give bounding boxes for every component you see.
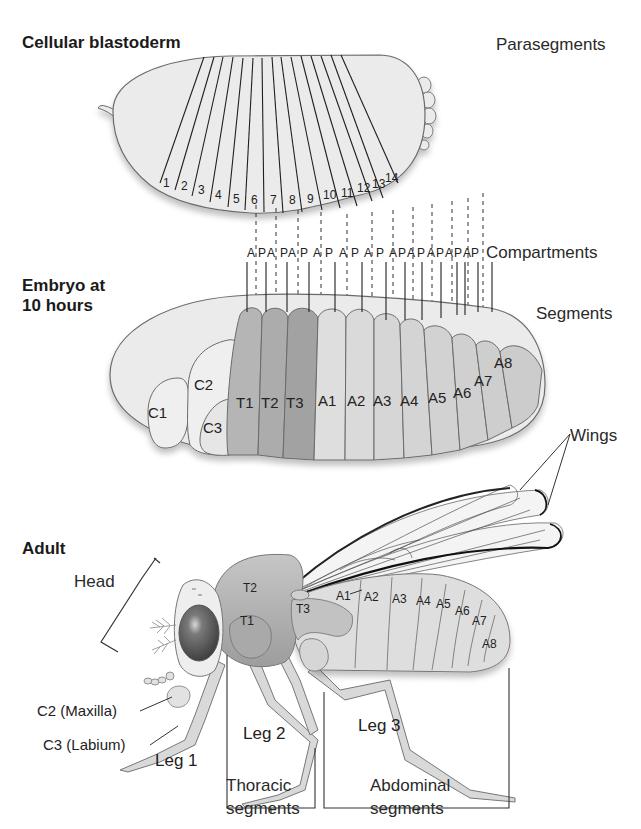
segment-c3: C3 [203,420,222,435]
segment-a2: A2 [347,393,365,408]
compartment-a: A [313,247,321,259]
drosophila-segmentation-figure: Cellular blastoderm Parasegments 1 2 3 4… [0,0,641,829]
segment-a3: A3 [373,393,391,408]
segment-a6: A6 [453,385,471,400]
haltere [291,590,309,600]
abdominal-segments-label-line1: Abdominal [370,777,450,794]
parasegment-number: 12 [357,182,370,194]
adult-t3: T3 [296,603,310,615]
segment-a5: A5 [428,390,446,405]
adult-a8: A8 [482,638,497,650]
segment-t1: T1 [236,395,254,410]
compartment-p: P [351,247,359,259]
parasegment-number: 13 [372,178,385,190]
antenna-arista [150,618,176,654]
adult-a4: A4 [416,595,431,607]
compartment-a: A [463,247,471,259]
segment-a1: A1 [318,393,336,408]
parasegment-number: 3 [198,184,205,196]
segment-c2: C2 [194,377,213,392]
adult-title: Adult [22,540,65,557]
parasegment-number: 5 [233,193,240,205]
adult-a5: A5 [436,598,451,610]
maxilla-label: C2 (Maxilla) [37,703,117,718]
segment-t3: T3 [286,395,304,410]
segment-a4: A4 [400,393,418,408]
parasegment-number: 1 [163,177,170,189]
thoracic-segments-label-line1: Thoracic [226,777,291,794]
compartment-a: A [407,247,415,259]
compartments-label: Compartments [486,244,597,261]
head-label: Head [74,573,115,590]
adult-a3: A3 [392,593,407,605]
compartment-p: P [417,247,425,259]
adult-t1: T1 [240,615,254,627]
compartment-p: P [280,247,288,259]
parasegments-label: Parasegments [496,36,606,53]
compound-eye [179,605,219,661]
parasegment-number: 2 [181,180,188,192]
blastoderm-title: Cellular blastoderm [22,34,181,51]
parasegment-number: 10 [323,189,336,201]
parasegment-number: 8 [289,194,296,206]
compartment-a: A [364,247,372,259]
segment-a8: A8 [494,355,512,370]
compartment-p: P [258,247,266,259]
compartment-p: P [471,247,479,259]
mouthparts [144,672,190,707]
leg-3-label: Leg 3 [358,717,401,734]
adult-t2: T2 [243,582,257,594]
adult-a7: A7 [472,615,487,627]
compartment-a: A [267,247,275,259]
compartment-p: P [436,247,444,259]
adult-a6: A6 [455,605,470,617]
compartment-p: P [325,247,333,259]
compartment-a: A [389,247,397,259]
leg-1-label: Leg 1 [155,752,198,769]
labium-label: C3 (Labium) [43,737,126,752]
abdominal-segments-label-line2: segments [370,800,444,817]
compartment-a: A [427,247,435,259]
adult-a2: A2 [364,591,379,603]
compartment-p: P [454,247,462,259]
compartment-a: A [288,247,296,259]
compartment-a: A [247,247,255,259]
parasegment-number: 6 [251,194,258,206]
segment-t2: T2 [261,395,279,410]
compartment-p: P [398,247,406,259]
parasegment-number: 9 [307,193,314,205]
compartment-a: A [445,247,453,259]
compartment-p: P [376,247,384,259]
parasegment-number: 4 [215,189,222,201]
adult-a1: A1 [336,590,351,602]
wings-label: Wings [570,427,617,444]
segment-a7: A7 [474,373,492,388]
parasegment-number: 7 [270,194,277,206]
segment-c1: C1 [148,405,167,420]
parasegment-number: 14 [385,172,398,184]
compartment-p: P [300,247,308,259]
leg-2-label: Leg 2 [243,725,286,742]
embryo-title-line2: 10 hours [22,297,93,314]
thoracic-segments-label-line2: segments [226,800,300,817]
parasegment-number: 11 [341,187,353,199]
compartment-a: A [339,247,347,259]
segments-label: Segments [536,305,613,322]
embryo-title-line1: Embryo at [22,277,105,294]
